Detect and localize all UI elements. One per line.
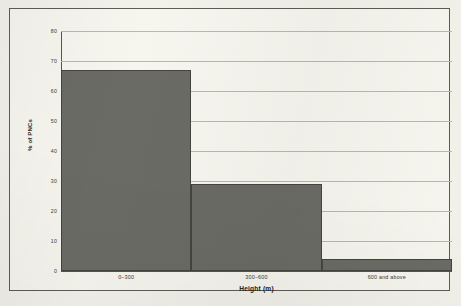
chart-frame: 0 10 20 30 40 50 60 70 80 % of PNCs xyxy=(9,8,450,291)
y-axis-tick-labels: 0 10 20 30 40 50 60 70 80 xyxy=(30,31,57,271)
y-axis-title: % of PNCs xyxy=(27,119,33,151)
y-tick-label-0: 0 xyxy=(54,268,57,274)
y-tick-label-60: 60 xyxy=(51,88,57,94)
x-axis-line xyxy=(61,271,452,272)
bars-layer xyxy=(61,31,452,271)
y-tick-label-10: 10 xyxy=(51,238,57,244)
chart-figure: 0 10 20 30 40 50 60 70 80 % of PNCs xyxy=(0,0,461,306)
plot-area xyxy=(61,31,452,271)
bar-600-and-above xyxy=(322,259,452,271)
y-tick-label-20: 20 xyxy=(51,208,57,214)
y-tick-label-80: 80 xyxy=(51,28,57,34)
y-tick-label-40: 40 xyxy=(51,148,57,154)
y-tick-label-70: 70 xyxy=(51,58,57,64)
y-tick-label-50: 50 xyxy=(51,118,57,124)
bar-300-600 xyxy=(191,184,321,271)
x-axis-title: Height (m) xyxy=(61,285,452,292)
y-tick-label-30: 30 xyxy=(51,178,57,184)
bar-0-300 xyxy=(61,70,191,271)
